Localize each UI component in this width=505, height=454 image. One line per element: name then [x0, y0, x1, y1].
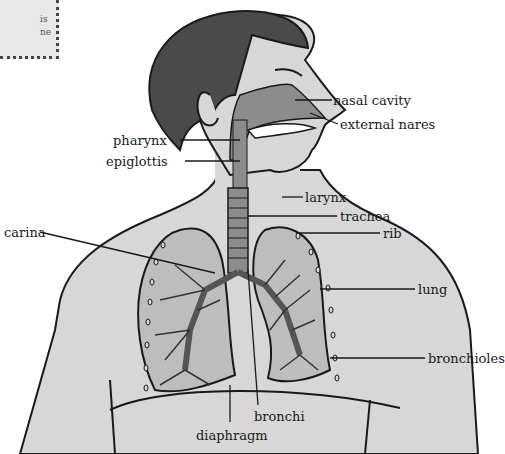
- label-larynx: larynx: [305, 191, 346, 204]
- label-bronchioles: bronchioles: [428, 352, 505, 365]
- label-rib: rib: [383, 227, 402, 240]
- label-nasal-cavity: nasal cavity: [333, 94, 411, 107]
- label-bronchi: bronchi: [254, 410, 305, 423]
- label-external-nares: external nares: [340, 118, 435, 131]
- label-carina: carina: [4, 226, 46, 239]
- label-lung: lung: [418, 283, 447, 296]
- label-diaphragm: diaphragm: [196, 429, 268, 442]
- label-epiglottis: epiglottis: [106, 155, 168, 168]
- label-pharynx: pharynx: [113, 134, 167, 147]
- torso: [20, 170, 478, 454]
- pharynx-tube: [233, 120, 247, 190]
- label-trachea: trachea: [340, 210, 390, 223]
- trachea-tube: [228, 188, 248, 273]
